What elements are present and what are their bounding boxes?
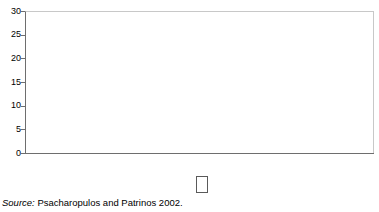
y-tick-label: 10 (11, 101, 21, 110)
source-text: Psacharopulos and Patrinos 2002. (37, 197, 182, 208)
plot-area (25, 11, 374, 154)
y-tick-label: 20 (11, 54, 21, 63)
y-tick-label: 30 (11, 7, 21, 16)
y-tick-label: 25 (11, 30, 21, 39)
x-axis-labels (25, 160, 374, 174)
bar-chart: 051015202530 Source: Psacharopulos and P… (0, 0, 379, 212)
y-tick-label: 15 (11, 78, 21, 87)
x-axis-baseline (25, 153, 374, 154)
source-prefix: Source: (2, 197, 35, 208)
chart-legend (196, 176, 208, 193)
y-axis: 051015202530 (0, 11, 21, 154)
source-note: Source: Psacharopulos and Patrinos 2002. (2, 197, 183, 209)
